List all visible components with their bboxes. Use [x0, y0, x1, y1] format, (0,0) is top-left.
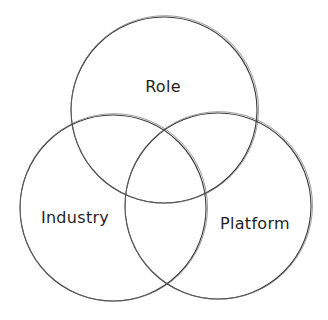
role-label: Role	[145, 77, 181, 96]
role-circle	[71, 17, 257, 203]
set-platform: Platform	[125, 112, 313, 299]
set-industry: Industry	[20, 114, 208, 301]
industry-label: Industry	[41, 208, 109, 227]
platform-circle	[125, 113, 311, 299]
venn-diagram: Role Industry Platform	[0, 0, 328, 320]
platform-label: Platform	[220, 214, 290, 233]
set-role: Role	[71, 16, 259, 203]
